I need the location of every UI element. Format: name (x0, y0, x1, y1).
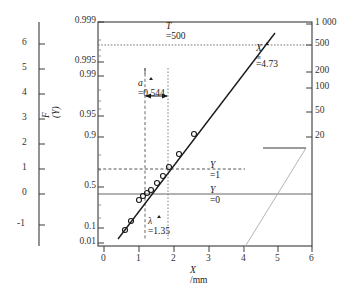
annotation-xm-hat: Xm=4.73 (256, 44, 278, 69)
T-tick-1000: 1 000 (315, 18, 336, 28)
return-period-axis-ticks (306, 24, 312, 137)
prob-tick-0995: 0.995 (52, 56, 96, 66)
probability-axis-title: F(Y) (42, 106, 61, 118)
data-point (155, 181, 160, 186)
reduced-tick-5: 5 (22, 63, 27, 73)
data-point (167, 165, 172, 170)
plot-frame (98, 22, 312, 246)
x-tick-3: 3 (206, 254, 211, 264)
prob-tick-0999: 0.999 (52, 16, 96, 26)
reduced-tick-6: 6 (22, 38, 27, 48)
data-point (192, 132, 197, 137)
x-tick-5: 5 (275, 254, 280, 264)
reduced-tick-0: 0 (22, 188, 27, 198)
reduced-tick-1: 1 (22, 163, 27, 173)
reduced-tick-3: 3 (22, 113, 27, 123)
T-tick-200: 200 (315, 66, 329, 76)
prob-tick-01: 0.1 (52, 222, 96, 232)
T-tick-500: 500 (315, 39, 329, 49)
x-tick-6: 6 (309, 254, 314, 264)
probability-axis-ticks (98, 22, 104, 243)
x-axis-title: X/mm (190, 266, 207, 285)
data-point (177, 152, 182, 157)
data-point (161, 174, 166, 179)
T-tick-50: 50 (315, 106, 325, 116)
reduced-tick-4: 4 (22, 88, 27, 98)
prob-tick-001: 0.01 (52, 237, 96, 247)
prob-tick-09: 0.9 (52, 131, 96, 141)
annotation-t500: T=500 (166, 22, 186, 41)
x-tick-0: 0 (101, 254, 106, 264)
T-tick-20: 20 (315, 131, 325, 141)
x-tick-2: 2 (171, 254, 176, 264)
data-point (149, 188, 154, 193)
prob-tick-05: 0.5 (52, 181, 96, 191)
x-axis-ticks (104, 246, 312, 252)
annotation-a-hat: a=0.544 (138, 79, 165, 98)
T-tick-100: 100 (315, 82, 329, 92)
left-reduced-axis (39, 22, 45, 246)
reduced-tick-2: 2 (22, 138, 27, 148)
prob-tick-099: 0.99 (52, 70, 96, 80)
annotation-lambda-hat: λ=1.35 (148, 217, 170, 236)
reduced-tick-minus1: -1 (17, 219, 25, 229)
data-point (137, 198, 142, 203)
annotation-y0: Y=0 (210, 186, 220, 205)
x-tick-4: 4 (241, 254, 246, 264)
annotation-y1: Y=1 (210, 161, 220, 180)
fitted-line (118, 33, 275, 239)
construction-diagonal (243, 148, 306, 250)
x-tick-1: 1 (136, 254, 141, 264)
